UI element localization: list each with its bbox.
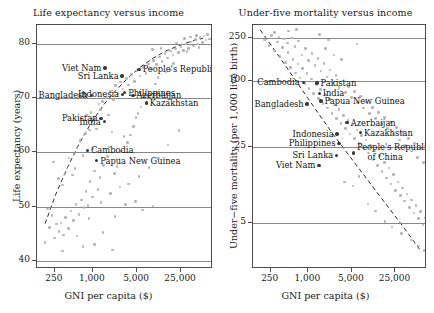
y-tick-mark (32, 260, 36, 261)
data-point (134, 200, 137, 203)
gridline (37, 261, 211, 262)
data-point (307, 59, 310, 62)
y-tick-label: 60 (2, 145, 30, 155)
point-label: Cambodia (91, 146, 133, 155)
data-point (362, 107, 365, 110)
data-point (301, 54, 304, 57)
data-point (102, 231, 105, 234)
data-point (44, 241, 47, 244)
highlighted-data-point (86, 149, 89, 152)
data-point (331, 112, 334, 115)
data-point (286, 42, 289, 45)
data-point (268, 44, 271, 47)
highlighted-data-point (103, 66, 106, 69)
x-tick-label: 250 (45, 273, 62, 283)
data-point (371, 106, 374, 109)
data-point (116, 165, 119, 168)
data-point (99, 176, 102, 179)
highlighted-data-point (345, 121, 348, 124)
data-point (273, 31, 276, 34)
data-point (160, 47, 163, 50)
x-tick-mark (307, 268, 308, 272)
point-label: Philippines (289, 139, 336, 148)
data-point (381, 170, 384, 173)
x-tick-label: 25,000 (379, 273, 411, 283)
data-point (123, 135, 126, 138)
y-tick-mark (248, 80, 252, 81)
data-point (308, 87, 311, 90)
data-point (353, 90, 356, 93)
data-point (107, 114, 110, 117)
data-point (75, 203, 78, 206)
data-point (148, 166, 151, 169)
highlighted-data-point (137, 68, 140, 71)
data-point (368, 112, 371, 115)
data-point (410, 199, 413, 202)
point-label: Azerbaijan (351, 118, 396, 127)
data-point (397, 181, 400, 184)
data-point (46, 208, 49, 211)
panel-right-x-axis-title: GNI per capita ($) (217, 290, 434, 301)
point-label: Cambodia (257, 78, 299, 87)
data-point (174, 48, 177, 51)
y-tick-label: 50 (2, 200, 30, 210)
data-point (74, 167, 77, 170)
x-tick-mark (54, 268, 55, 272)
data-point (417, 245, 420, 248)
data-point (183, 37, 186, 40)
data-point (301, 67, 304, 70)
data-point (270, 34, 273, 37)
highlighted-data-point (335, 154, 338, 157)
data-point (151, 48, 154, 51)
data-point (109, 192, 112, 195)
highlighted-data-point (123, 91, 126, 94)
highlighted-data-point (352, 151, 355, 154)
data-point (72, 219, 75, 222)
data-point (297, 40, 300, 43)
point-label: Bangladesh (255, 100, 304, 109)
x-tick-label: 25,000 (164, 273, 196, 283)
data-point (169, 50, 172, 53)
point-label: Pakistan (321, 79, 357, 88)
data-point (342, 114, 345, 117)
data-point (415, 204, 418, 207)
panel-right-title: Under-five mortality versus income (217, 7, 434, 18)
data-point (206, 33, 209, 36)
data-point (208, 38, 211, 41)
data-point (64, 173, 67, 176)
data-point (338, 108, 341, 111)
data-point (182, 49, 185, 52)
data-point (133, 80, 136, 83)
data-point (344, 127, 347, 130)
data-point (82, 245, 85, 248)
data-point (294, 45, 297, 48)
data-point (335, 117, 338, 120)
data-point (195, 34, 198, 37)
data-point (192, 45, 195, 48)
data-point (392, 173, 395, 176)
data-point (127, 84, 130, 87)
data-point (198, 46, 201, 49)
data-point (61, 184, 64, 187)
data-point (360, 134, 363, 137)
data-point (263, 39, 266, 42)
data-point (52, 161, 55, 164)
data-point (284, 61, 287, 64)
data-point (406, 193, 409, 196)
panel-right-plot-area: CambodiaPakistanIndiaBangladeshPapua New… (252, 24, 426, 268)
y-tick-label: 5 (218, 216, 246, 226)
data-point (138, 175, 141, 178)
highlighted-data-point (319, 99, 322, 102)
point-label: Papua New Guinea (325, 97, 405, 106)
data-point (281, 46, 284, 49)
y-tick-mark (32, 97, 36, 98)
data-point (180, 45, 183, 48)
data-point (391, 226, 394, 229)
data-point (186, 50, 189, 53)
highlighted-data-point (337, 142, 340, 145)
data-point (48, 226, 51, 229)
data-point (101, 100, 104, 103)
data-point (111, 131, 114, 134)
data-point (410, 239, 413, 242)
data-point (424, 217, 426, 220)
